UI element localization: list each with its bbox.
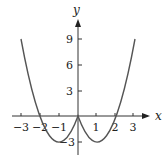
- x-tick-label: −3: [13, 121, 29, 134]
- y-axis-label: y: [72, 3, 80, 17]
- y-ticks: [78, 39, 82, 142]
- x-tick-label: 2: [112, 121, 119, 134]
- x-tick-label: 1: [93, 121, 100, 134]
- x-axis-arrow-icon: [142, 113, 150, 119]
- y-axis-arrow-icon: [75, 19, 81, 27]
- x-tick-label: −1: [51, 121, 67, 134]
- y-tick-label: 3: [66, 85, 73, 98]
- y-tick-label: 9: [66, 33, 73, 46]
- parabola-chart: −3 −2 −1 1 2 3 9 6 3 −3 x y: [0, 0, 167, 163]
- x-tick-label: 3: [130, 121, 137, 134]
- x-tick-label: −2: [32, 121, 48, 134]
- y-tick-label: 6: [66, 59, 73, 72]
- x-axis-label: x: [155, 109, 162, 123]
